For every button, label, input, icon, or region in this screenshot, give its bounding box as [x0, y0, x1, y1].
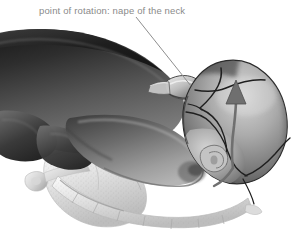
illustration-canvas: point of rotation: nape of the neck: [0, 0, 301, 240]
ear-canal: [211, 156, 218, 165]
ischial-spine-highlight: [31, 177, 41, 185]
fetal-head-rotation-illustration: point of rotation: nape of the neck: [0, 0, 301, 240]
fetal-ear: [200, 145, 228, 172]
annotation-label: point of rotation: nape of the neck: [39, 5, 185, 16]
